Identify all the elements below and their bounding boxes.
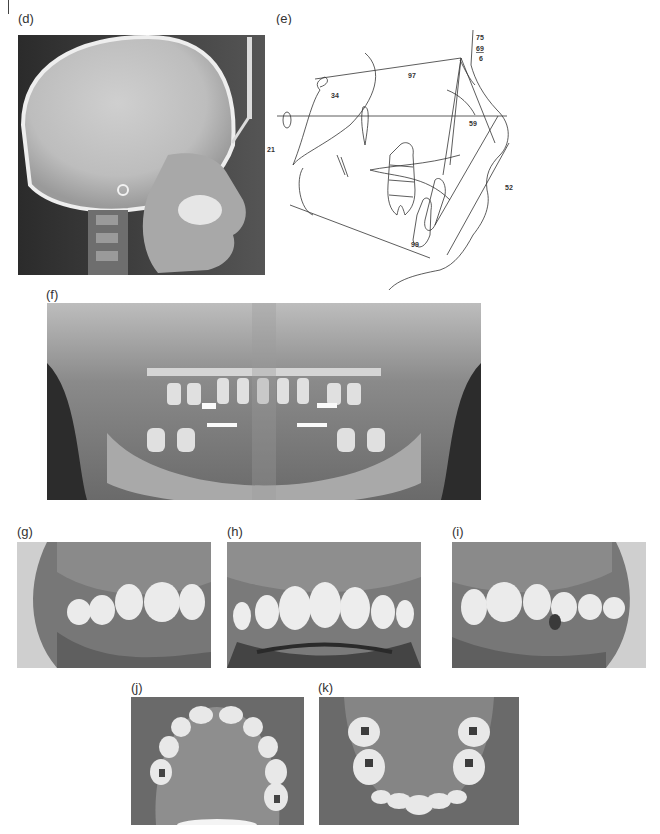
tracing-value-top2: 69 xyxy=(476,45,484,52)
tracing-value-right-low: 52 xyxy=(505,184,513,191)
panel-j-maxillary-occlusal-photo xyxy=(131,697,304,825)
panel-g-right-buccal-photo xyxy=(17,542,211,668)
panel-label-f: (f) xyxy=(46,287,58,302)
mandibular-occlusal-image xyxy=(319,697,519,825)
panel-d-ceph-radiograph xyxy=(18,35,265,275)
intraoral-left-image xyxy=(452,542,646,668)
maxillary-occlusal-image xyxy=(131,697,304,825)
tracing-value-top1: 75 xyxy=(476,34,484,41)
panel-h-frontal-photo xyxy=(227,542,421,668)
panel-label-k: (k) xyxy=(318,680,333,695)
tracing-value-upper-mid: 97 xyxy=(408,72,416,79)
panel-label-g: (g) xyxy=(17,524,33,539)
panel-label-d: (d) xyxy=(18,11,34,26)
panel-k-mandibular-occlusal-photo xyxy=(319,697,519,825)
panel-label-j: (j) xyxy=(131,680,143,695)
panel-label-h: (h) xyxy=(227,524,243,539)
page-margin-rule xyxy=(8,0,9,14)
tracing-value-left: 21 xyxy=(267,146,275,153)
panel-i-left-buccal-photo xyxy=(452,542,646,668)
tracing-value-bottom: 99 xyxy=(411,241,419,248)
panel-f-panoramic-radiograph xyxy=(47,303,481,500)
tracing-drawing: 75 69 6 34 97 21 59 52 99 xyxy=(265,25,525,290)
panel-e-ceph-tracing: 75 69 6 34 97 21 59 52 99 xyxy=(265,25,525,290)
intraoral-frontal-image xyxy=(227,542,421,668)
tracing-value-saddle: 34 xyxy=(331,92,339,99)
tracing-value-top3: 6 xyxy=(479,55,483,62)
intraoral-right-image xyxy=(17,542,211,668)
tracing-value-right-mid: 59 xyxy=(469,120,477,127)
panel-label-e: (e) xyxy=(276,11,292,26)
ceph-xray-image xyxy=(18,35,265,275)
panoramic-xray-image xyxy=(47,303,481,500)
panel-label-i: (i) xyxy=(452,524,464,539)
